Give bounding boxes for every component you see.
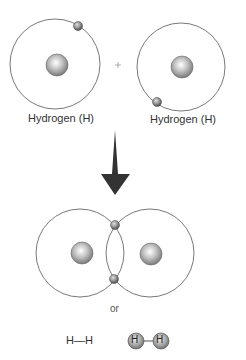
nucleus-left — [71, 242, 93, 264]
electron — [74, 22, 83, 31]
nucleus — [171, 56, 193, 78]
hydrogen-atom-left — [10, 19, 100, 109]
hydrogen-molecule — [36, 209, 194, 297]
atom-label-left: Hydrogen (H) — [28, 112, 94, 124]
or-label: or — [110, 303, 119, 314]
atom-label-right: Hydrogen (H) — [150, 113, 216, 125]
diagram-canvas — [0, 0, 246, 360]
structural-formula: H—H — [66, 334, 93, 346]
shared-electron-top — [111, 221, 120, 230]
ball-label-right: H — [156, 334, 163, 345]
hydrogen-atom-right — [137, 23, 225, 111]
nucleus — [46, 54, 68, 76]
electron — [153, 98, 162, 107]
shared-electron-bottom — [110, 275, 119, 284]
down-arrow-icon — [101, 130, 130, 195]
plus-sign — [115, 62, 121, 68]
ball-label-left: H — [131, 334, 138, 345]
nucleus-right — [140, 243, 162, 265]
